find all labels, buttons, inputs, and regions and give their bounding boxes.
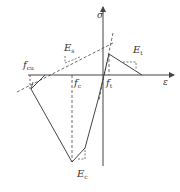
es-label-sub: s bbox=[71, 47, 74, 54]
es-label: Es bbox=[64, 43, 74, 54]
et-label: Et bbox=[133, 45, 143, 56]
ft-label-sub: t bbox=[110, 82, 112, 89]
fcu-label: fcu bbox=[23, 60, 34, 71]
et-label-sub: t bbox=[140, 49, 142, 56]
es-slope-triangle bbox=[65, 56, 80, 63]
fc-label-sub: c bbox=[78, 82, 81, 89]
stress-strain-diagram bbox=[0, 0, 180, 192]
et-slope-triangle bbox=[123, 62, 136, 70]
fcu-label-sub: cu bbox=[27, 64, 34, 71]
ft-label: ft bbox=[106, 78, 112, 89]
ec-label-sub: c bbox=[84, 173, 87, 180]
sigma-axis-label: σ bbox=[97, 11, 103, 20]
ec-label: Ec bbox=[77, 169, 88, 180]
stress-strain-curve bbox=[31, 54, 142, 162]
epsilon-axis-label: ε bbox=[163, 78, 168, 87]
fc-label: fc bbox=[74, 78, 81, 89]
